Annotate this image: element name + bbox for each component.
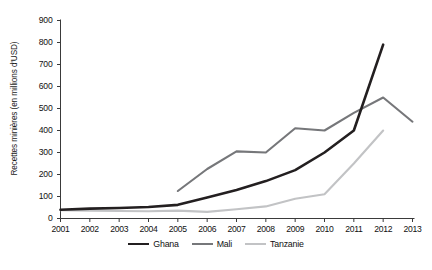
plot-area — [0, 0, 432, 270]
line-chart: Recettes minières (en millions d'USD) 01… — [0, 0, 432, 270]
legend-swatch-icon — [128, 243, 149, 245]
legend-item-label: Tanzanie — [270, 239, 304, 249]
legend-item-label: Ghana — [153, 239, 178, 249]
legend-item-mali: Mali — [192, 239, 232, 249]
series-line-tanzanie — [61, 131, 384, 212]
legend-item-ghana: Ghana — [128, 239, 178, 249]
legend-item-label: Mali — [217, 239, 232, 249]
legend-item-tanzanie: Tanzanie — [245, 239, 304, 249]
legend-swatch-icon — [245, 243, 266, 245]
series-line-mali — [178, 98, 413, 192]
chart-legend: GhanaMaliTanzanie — [0, 239, 432, 249]
legend-swatch-icon — [192, 243, 213, 245]
